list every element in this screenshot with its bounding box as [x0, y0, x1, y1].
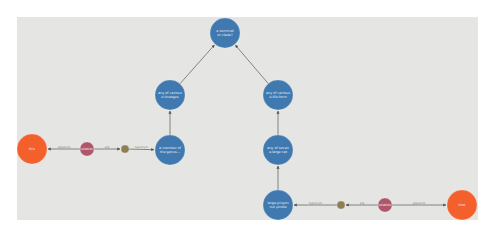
- edge-label: hypernym: [309, 202, 323, 205]
- node-label: this: [29, 147, 35, 151]
- graph-node-right-mid[interactable]: any of sevene.large cat: [263, 135, 293, 165]
- edge-label: hypernym: [135, 146, 149, 149]
- edge-label: arg: [360, 202, 365, 205]
- node-label: e.lineages: [161, 95, 179, 99]
- graph-node-left-entity[interactable]: this: [17, 134, 47, 164]
- graph-node-right-entity[interactable]: that: [447, 190, 477, 220]
- node-label: relation: [379, 203, 392, 207]
- graph-node-right-upper[interactable]: any of variouse.life-form: [263, 80, 293, 110]
- graph-edge[interactable]: [235, 45, 268, 83]
- graph-edge[interactable]: [129, 149, 154, 150]
- graph-node-left-upper[interactable]: any of variouse.lineages: [155, 80, 185, 110]
- node-label: e.life-form: [269, 95, 287, 99]
- node-label: relation: [81, 147, 94, 151]
- graph-node-left-relation[interactable]: relation: [80, 142, 94, 156]
- graph-node-top[interactable]: a terminalor clade?: [210, 18, 240, 48]
- graph-edge[interactable]: [180, 45, 214, 84]
- node-label: that: [459, 203, 467, 207]
- node-label: nut pinole: [269, 205, 286, 209]
- connector-node-circle[interactable]: [121, 145, 129, 153]
- node-label: the genus...: [160, 150, 180, 154]
- node-label: or clade?: [217, 33, 233, 37]
- graph-node-left-lower[interactable]: a member ofthe genus...: [155, 135, 185, 165]
- graph-node-left-connector[interactable]: [121, 145, 129, 153]
- edge-label: argument: [413, 202, 426, 205]
- edge-label: arg: [105, 146, 110, 149]
- knowledge-graph[interactable]: hypernymargargumenthypernymargargument a…: [0, 0, 490, 231]
- graph-node-right-relation[interactable]: relation: [378, 198, 392, 212]
- graph-node-right-connector[interactable]: [337, 201, 345, 209]
- edge-label: argument: [58, 146, 71, 149]
- connector-node-circle[interactable]: [337, 201, 345, 209]
- node-label: e.large cat: [269, 150, 288, 154]
- edges-layer: hypernymargargumenthypernymargargument: [48, 45, 446, 205]
- nodes-layer: a terminalor clade?any of variouse.linea…: [17, 18, 477, 220]
- graph-node-right-lower[interactable]: large pinyonnut pinole: [263, 190, 293, 220]
